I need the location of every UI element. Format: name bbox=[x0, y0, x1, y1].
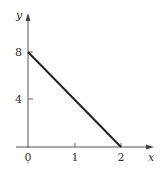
line-chart: y x 8 4 0 1 2 bbox=[0, 0, 162, 180]
y-tick-label-4: 4 bbox=[15, 93, 22, 106]
data-line bbox=[28, 52, 121, 147]
x-axis-label: x bbox=[148, 151, 155, 164]
x-tick-label-2: 2 bbox=[118, 151, 125, 164]
y-tick-label-8: 8 bbox=[15, 46, 22, 59]
x-tick-label-0: 0 bbox=[25, 151, 32, 164]
x-tick-label-1: 1 bbox=[72, 151, 79, 164]
y-axis-label: y bbox=[15, 9, 23, 22]
y-axis-arrow-icon bbox=[26, 13, 31, 21]
x-axis-arrow-icon bbox=[146, 145, 154, 150]
